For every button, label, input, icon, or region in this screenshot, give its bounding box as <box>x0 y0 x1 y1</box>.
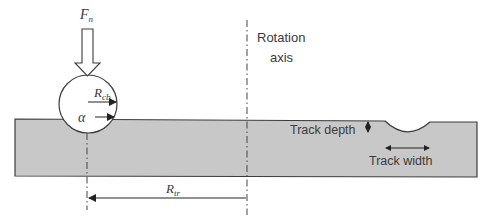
angle-label: α <box>78 110 86 125</box>
track-radius-label: Rtr <box>165 181 180 198</box>
ball <box>59 75 117 133</box>
normal-force-label: Fn <box>79 7 94 24</box>
track-depth-label: Track depth <box>290 123 356 137</box>
rotation-axis-label-line1: Rotation <box>257 30 305 45</box>
normal-force-arrow-icon <box>75 29 100 76</box>
ball-on-disc-diagram: Fn Rcb α Rotation axis Track depth Track… <box>0 0 488 223</box>
track-width-label: Track width <box>369 154 432 168</box>
rotation-axis-label-line2: axis <box>270 50 294 65</box>
